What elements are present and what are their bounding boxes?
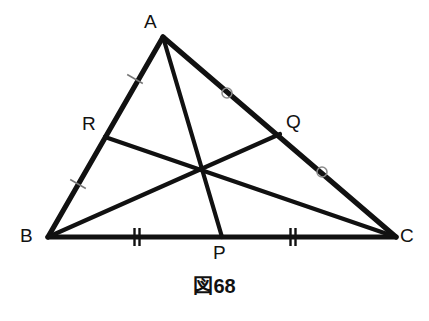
- midpoint-label-r: R: [82, 114, 96, 133]
- median-ap: [163, 37, 222, 237]
- midpoint-label-q: Q: [286, 112, 301, 131]
- median-cr: [105, 137, 396, 237]
- figure-caption: 図68: [0, 276, 429, 296]
- vertex-label-b: B: [20, 226, 33, 245]
- figure-container: A B C P Q R 図68: [0, 0, 429, 321]
- midpoint-label-p: P: [213, 243, 226, 262]
- vertex-label-c: C: [400, 226, 414, 245]
- triangle-medians: [48, 37, 396, 237]
- side-ca: [163, 37, 396, 237]
- triangle-diagram: [0, 0, 429, 321]
- triangle-sides: [48, 37, 396, 237]
- vertex-label-a: A: [144, 12, 157, 31]
